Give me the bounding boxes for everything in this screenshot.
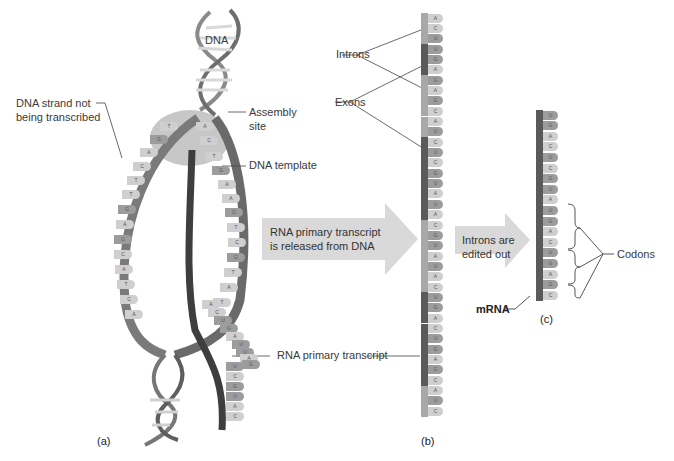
nucleotide-base: A — [543, 132, 558, 141]
strand-backbone-segment — [421, 34, 428, 44]
strand-backbone-segment — [421, 220, 428, 230]
nucleotide-base: G — [242, 360, 260, 369]
nucleotide-base: U — [428, 293, 443, 302]
nucleotide-base: G — [227, 253, 245, 262]
strand-backbone-segment — [536, 280, 543, 291]
nucleotide-base: U — [428, 45, 443, 54]
nucleotide-base: C — [428, 158, 443, 167]
release-arrow-text-line1: RNA primary transcript — [270, 225, 381, 239]
nucleotide-base: U — [428, 334, 443, 343]
strand-backbone-segment — [421, 179, 428, 189]
strand-backbone-segment — [421, 96, 428, 106]
nucleotide-base: U — [226, 392, 244, 401]
strand-backbone-segment — [536, 184, 543, 195]
strand-backbone-segment — [421, 303, 428, 313]
assembly-site-label-line2: site — [249, 120, 266, 133]
strand-backbone-segment — [421, 251, 428, 261]
edit-arrow-text-line2: edited out — [462, 247, 510, 261]
nucleotide-base: A — [428, 210, 443, 219]
nucleotide-base: A — [428, 117, 443, 126]
nucleotide-base: C — [133, 162, 151, 171]
nucleotide-base: G — [212, 166, 230, 175]
nucleotide-base: G — [543, 280, 558, 289]
nucleotide-base: C — [200, 136, 218, 145]
nucleotide-base: A — [125, 310, 143, 319]
nucleotide-base: C — [543, 238, 558, 247]
exons-label: Exons — [335, 96, 366, 109]
strand-backbone-segment — [536, 142, 543, 153]
mrna-label: mRNA — [476, 303, 510, 316]
nucleotide-base: U — [428, 148, 443, 157]
nucleotide-base: A — [428, 355, 443, 364]
nucleotide-base: U — [428, 200, 443, 209]
strand-backbone-segment — [421, 355, 428, 365]
nucleotide-base: T — [122, 190, 140, 199]
nucleotide-base: G — [428, 76, 443, 85]
nucleotide-base: C — [428, 138, 443, 147]
nucleotide-base: G — [543, 174, 558, 183]
strand-backbone-segment — [421, 386, 428, 396]
nucleotide-base: A — [196, 122, 214, 131]
nucleotide-base: A — [222, 194, 240, 203]
nucleotide-base: C — [428, 221, 443, 230]
nucleotide-base: A — [226, 402, 244, 411]
strand-backbone-segment — [421, 117, 428, 127]
edit-arrow-text-line1: Introns are — [462, 233, 515, 247]
codon-brackets — [505, 204, 614, 309]
nucleotide-base: C — [543, 142, 558, 151]
strand-backbone-segment — [421, 23, 428, 33]
strand-backbone-segment — [536, 131, 543, 142]
strand-backbone-segment — [536, 258, 543, 269]
nucleotide-base: U — [428, 34, 443, 43]
strand-backbone-segment — [421, 148, 428, 158]
strand-backbone-segment — [421, 13, 428, 23]
strand-backbone-segment — [536, 269, 543, 280]
panel-b-label: (b) — [421, 435, 434, 447]
strand-backbone-segment — [421, 210, 428, 220]
nucleotide-base: G — [428, 365, 443, 374]
strand-backbone-segment — [536, 174, 543, 185]
nucleotide-base: G — [428, 231, 443, 240]
bottom-double-helix — [145, 355, 182, 445]
strand-backbone-segment — [421, 158, 428, 168]
nucleotide-base: A — [220, 283, 238, 292]
nucleotide-base: U — [543, 206, 558, 215]
strand-backbone-segment — [421, 292, 428, 302]
strand-backbone-segment — [536, 290, 543, 301]
nucleotide-base: A — [115, 265, 133, 274]
nucleotide-base: G — [428, 169, 443, 178]
strand-backbone-segment — [421, 365, 428, 375]
nucleotide-base: A — [116, 220, 134, 229]
strand-backbone-segment — [536, 227, 543, 238]
nucleotide-base: C — [543, 164, 558, 173]
strand-backbone-segment — [421, 85, 428, 95]
strand-backbone-segment — [421, 54, 428, 64]
nucleotide-base: T — [117, 280, 135, 289]
nucleotide-base: G — [543, 217, 558, 226]
nucleotide-base: A — [428, 65, 443, 74]
nucleotide-base: G — [428, 303, 443, 312]
nucleotide-base: G — [543, 121, 558, 130]
strand-backbone-segment — [421, 375, 428, 385]
nucleotide-base: U — [428, 127, 443, 136]
nucleotide-base: C — [120, 295, 138, 304]
nontemplate-strand-label-line2: being transcribed — [16, 111, 100, 124]
strand-backbone-segment — [421, 324, 428, 334]
rna-growing-backbone — [189, 150, 222, 430]
strand-backbone-segment — [421, 272, 428, 282]
nucleotide-base: C — [428, 376, 443, 385]
nucleotide-base: G — [225, 208, 243, 217]
strand-backbone-segment — [421, 168, 428, 178]
introns-label: Introns — [336, 48, 370, 61]
nontemplate-strand-label-line1: DNA strand not — [16, 97, 91, 110]
strand-backbone-segment — [421, 261, 428, 271]
nucleotide-base: A — [543, 195, 558, 204]
strand-backbone-segment — [536, 195, 543, 206]
strand-backbone-segment — [421, 106, 428, 116]
strand-backbone-segment — [536, 152, 543, 163]
strand-backbone-segment — [421, 313, 428, 323]
dna-label: DNA — [205, 34, 228, 47]
panel-a-label: (a) — [97, 435, 110, 447]
nucleotide-base: G — [428, 96, 443, 105]
strand-backbone-segment — [421, 44, 428, 54]
